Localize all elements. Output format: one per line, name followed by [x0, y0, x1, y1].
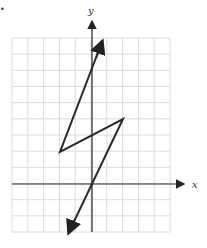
y-axis-label: y — [87, 5, 94, 16]
coordinate-graph: x y — [0, 0, 207, 248]
x-axis-label: x — [192, 179, 198, 190]
top-arrow — [96, 42, 102, 58]
bottom-arrow — [69, 220, 74, 232]
